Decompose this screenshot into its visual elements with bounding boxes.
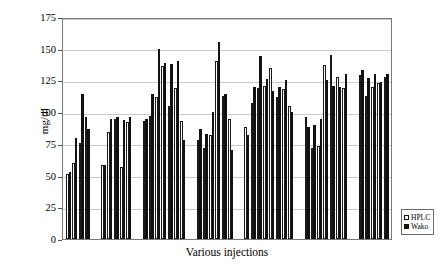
legend-label-wako: Wako	[411, 222, 428, 231]
y-tick-label: 25	[22, 203, 56, 213]
bar-wako-6	[110, 119, 113, 240]
legend-item-wako: Wako	[404, 222, 430, 231]
bar-wako-21	[224, 94, 227, 239]
bar-wako-38	[361, 70, 364, 239]
bar-wako-28	[278, 87, 281, 239]
legend-item-hplc: HPLC	[404, 213, 430, 222]
bar-wako-30	[291, 112, 294, 239]
bar-wako-4	[87, 129, 90, 239]
y-tick-label: 50	[22, 172, 56, 182]
bar-wako-33	[320, 119, 323, 240]
bar-wako-27	[272, 91, 275, 239]
y-tick-mark	[58, 240, 62, 241]
y-tick-label: 150	[22, 45, 56, 55]
bar-wako-31	[307, 127, 310, 239]
bar-wako-36	[339, 87, 342, 239]
bar-wako-24	[253, 87, 256, 239]
bar-wako-19	[212, 112, 215, 239]
bar-wako-13	[164, 63, 167, 239]
chart-legend: HPLC Wako	[401, 209, 434, 235]
y-tick-label: 175	[22, 13, 56, 23]
bar-wako-5	[104, 165, 107, 239]
bar-wako-35	[332, 86, 335, 239]
bar-wako-17	[199, 129, 202, 239]
legend-label-hplc: HPLC	[411, 213, 430, 222]
bar-wako-9	[129, 117, 132, 239]
bar-wako-3	[81, 94, 84, 239]
bar-series-container	[63, 19, 391, 239]
bar-wako-34	[326, 80, 329, 239]
bar-wako-12	[158, 49, 161, 239]
bar-wako-11	[151, 94, 154, 239]
bar-wako-22	[231, 150, 234, 239]
bar-wako-25	[259, 56, 262, 239]
bar-wako-8	[123, 120, 126, 239]
bar-wako-41	[380, 82, 383, 239]
legend-swatch-hplc-icon	[404, 215, 409, 220]
bar-wako-7	[116, 117, 119, 239]
plot-area	[62, 18, 392, 240]
bar-wako-29	[285, 80, 288, 239]
y-tick-label: 125	[22, 76, 56, 86]
bar-wako-32	[313, 125, 316, 239]
bar-wako-2	[75, 138, 78, 239]
bar-wako-37	[345, 74, 348, 239]
bar-chart-figure: mg/dl 1751501251007550250 Various inject…	[0, 0, 448, 271]
y-axis-tick-labels: 1751501251007550250	[22, 0, 56, 271]
bar-wako-16	[183, 140, 186, 239]
bar-wako-10	[145, 119, 148, 240]
bar-wako-26	[266, 79, 269, 239]
bar-wako-18	[205, 134, 208, 239]
bar-wako-40	[374, 74, 377, 239]
bar-wako-1	[69, 172, 72, 239]
y-tick-label: 0	[22, 235, 56, 245]
bar-wako-39	[367, 78, 370, 239]
bar-wako-20	[218, 42, 221, 239]
x-axis-label: Various injections	[62, 246, 392, 258]
bar-wako-14	[170, 64, 173, 239]
y-tick-label: 75	[22, 140, 56, 150]
bar-wako-42	[386, 74, 389, 239]
y-tick-label: 100	[22, 108, 56, 118]
legend-swatch-wako-icon	[404, 224, 409, 229]
bar-wako-15	[177, 61, 180, 239]
bar-wako-23	[247, 135, 250, 239]
